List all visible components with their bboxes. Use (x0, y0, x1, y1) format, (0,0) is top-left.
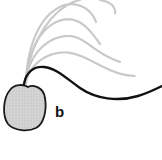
ghost-trace-3 (26, 19, 100, 80)
ghost-traces (26, 0, 135, 83)
flagellum-diagram (0, 0, 162, 160)
cell-body (4, 85, 46, 130)
ghost-trace-2 (26, 36, 120, 82)
panel-label: b (55, 104, 64, 119)
ghost-trace-6 (100, 0, 115, 14)
